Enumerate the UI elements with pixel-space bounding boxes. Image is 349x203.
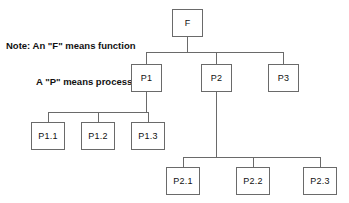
tree-node-p2-3[interactable]: P2.3 <box>303 167 337 195</box>
tree-node-label: P2.1 <box>173 176 192 186</box>
tree-node-p2-1[interactable]: P2.1 <box>166 167 200 195</box>
tree-node-label: P1.3 <box>138 131 157 141</box>
tree-node-label: P3 <box>278 73 289 83</box>
tree-node-p1-1[interactable]: P1.1 <box>31 122 65 150</box>
tree-node-p2[interactable]: P2 <box>201 64 232 92</box>
tree-node-p1[interactable]: P1 <box>131 64 162 92</box>
tree-node-p2-2[interactable]: P2.2 <box>236 167 270 195</box>
tree-node-label: P2.2 <box>243 176 262 186</box>
tree-node-label: P1.1 <box>38 131 57 141</box>
tree-node-label: F <box>185 18 191 28</box>
tree-node-f[interactable]: F <box>172 9 203 37</box>
diagram-canvas: Note: An "F" means function A "P" means … <box>0 0 349 203</box>
tree-node-p3[interactable]: P3 <box>268 64 299 92</box>
tree-node-p1-3[interactable]: P1.3 <box>131 122 165 150</box>
tree-node-label: P1.2 <box>88 131 107 141</box>
tree-node-label: P2 <box>211 73 222 83</box>
tree-node-p1-2[interactable]: P1.2 <box>81 122 115 150</box>
tree-node-label: P1 <box>141 73 152 83</box>
tree-node-label: P2.3 <box>310 176 329 186</box>
